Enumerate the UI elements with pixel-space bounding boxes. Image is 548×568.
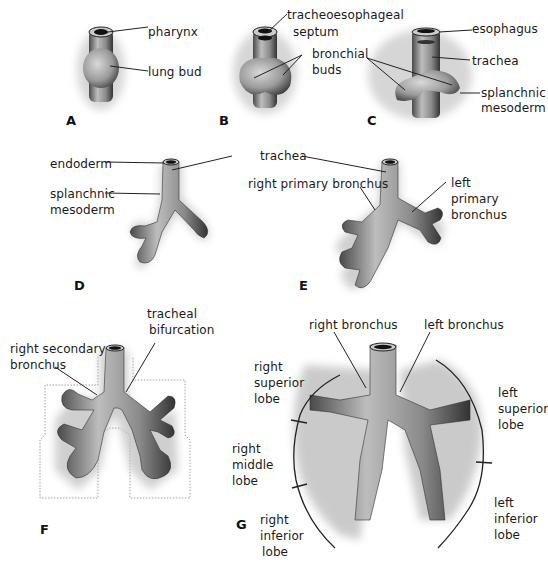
label-mesoderm-d: mesoderm xyxy=(50,203,115,217)
label-right-bronchus: right bronchus xyxy=(309,318,398,332)
label-ril-3: lobe xyxy=(262,545,288,559)
label-lsl-1: left xyxy=(498,386,518,400)
label-right-primary-bronchus: right primary bronchus xyxy=(248,177,388,191)
label-rsl-1: right xyxy=(254,360,283,374)
panel-label-g: G xyxy=(236,517,247,532)
label-buds: buds xyxy=(312,63,342,77)
panel-label-f: F xyxy=(40,522,49,537)
panel-b-drawing xyxy=(233,14,302,114)
label-lil-3: lobe xyxy=(494,528,520,542)
label-septum: septum xyxy=(293,25,339,39)
label-left-bronchus: left bronchus xyxy=(424,318,504,332)
label-ril-2: inferior xyxy=(260,529,304,543)
panel-c-drawing xyxy=(367,28,480,120)
label-splanchnic-d: splanchnic xyxy=(50,187,115,201)
label-left-primary-2: primary xyxy=(451,192,499,206)
label-mesoderm-c: mesoderm xyxy=(481,101,546,115)
panel-a-drawing xyxy=(77,27,148,110)
label-left-primary-1: left xyxy=(451,176,471,190)
label-trachea-c: trachea xyxy=(472,54,519,68)
label-pharynx: pharynx xyxy=(148,25,198,39)
label-lil-1: left xyxy=(494,496,514,510)
label-left-primary-3: bronchus xyxy=(451,208,507,222)
label-splanchnic-c: splanchnic xyxy=(481,86,546,100)
label-bronchial: bronchial xyxy=(312,47,368,61)
label-lil-2: inferior xyxy=(494,512,538,526)
label-tracheoesophageal: tracheoesophageal xyxy=(287,8,404,22)
panel-label-d: D xyxy=(74,278,85,293)
label-rsl-3: lobe xyxy=(254,392,280,406)
label-endoderm: endoderm xyxy=(50,157,112,171)
panel-label-b: B xyxy=(219,113,229,128)
label-lsl-3: lobe xyxy=(498,418,524,432)
leader-trachea-d xyxy=(172,156,232,170)
label-bifurcation: bifurcation xyxy=(149,323,215,337)
label-lung-bud: lung bud xyxy=(148,65,202,79)
label-trachea-e: trachea xyxy=(260,149,307,163)
label-rml-2: middle xyxy=(232,458,274,472)
label-ril-1: right xyxy=(260,513,289,527)
label-lsl-2: superior xyxy=(498,402,548,416)
panel-label-a: A xyxy=(66,113,76,128)
label-rsl-2: superior xyxy=(254,376,304,390)
panel-label-e: E xyxy=(299,278,308,293)
panel-label-c: C xyxy=(367,113,377,128)
panel-g-drawing xyxy=(291,332,492,548)
label-rml-1: right xyxy=(232,442,261,456)
label-bronchus-f: bronchus xyxy=(10,358,66,372)
label-tracheal: tracheal xyxy=(147,307,197,321)
label-right-secondary: right secondary xyxy=(10,342,106,356)
panel-d-drawing xyxy=(105,159,210,270)
label-rml-3: lobe xyxy=(232,474,258,488)
label-esophagus: esophagus xyxy=(472,22,538,36)
